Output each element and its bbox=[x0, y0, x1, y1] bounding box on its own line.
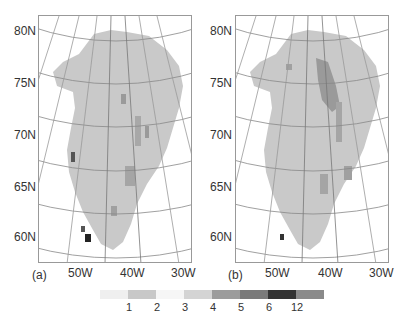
colorbar-label: 3 bbox=[182, 301, 188, 313]
y-tick-label: 80N bbox=[210, 24, 232, 38]
colorbar-swatch bbox=[128, 290, 156, 299]
colorbar-swatch bbox=[100, 290, 128, 299]
x-tick-label: 50W bbox=[68, 266, 93, 280]
panel-b-label: (b) bbox=[228, 268, 243, 282]
colorbar-label: 5 bbox=[238, 301, 244, 313]
y-tick-label: 70N bbox=[210, 128, 232, 142]
colorbar-label: 12 bbox=[291, 301, 303, 313]
y-tick-label: 65N bbox=[14, 180, 36, 194]
colorbar bbox=[100, 290, 324, 299]
colorbar-swatch bbox=[240, 290, 268, 299]
colorbar-swatch bbox=[156, 290, 184, 299]
panel-a-label: (a) bbox=[32, 268, 47, 282]
x-tick-label: 30W bbox=[171, 266, 196, 280]
greenland-map-a bbox=[39, 16, 192, 263]
greenland-map-b bbox=[236, 16, 389, 263]
y-tick-label: 60N bbox=[14, 230, 36, 244]
x-tick-label: 40W bbox=[318, 266, 343, 280]
y-tick-label: 70N bbox=[14, 128, 36, 142]
map-panel-b bbox=[235, 15, 389, 263]
y-tick-label: 65N bbox=[210, 180, 232, 194]
colorbar-label: 6 bbox=[266, 301, 272, 313]
colorbar-label: 1 bbox=[126, 301, 132, 313]
x-tick-label: 40W bbox=[120, 266, 145, 280]
colorbar-swatch bbox=[268, 290, 296, 299]
x-tick-label: 50W bbox=[265, 266, 290, 280]
colorbar-label: 2 bbox=[154, 301, 160, 313]
colorbar-swatch bbox=[184, 290, 212, 299]
x-tick-label: 30W bbox=[369, 266, 394, 280]
y-tick-label: 75N bbox=[14, 76, 36, 90]
map-panel-a bbox=[38, 15, 192, 263]
colorbar-swatch bbox=[212, 290, 240, 299]
colorbar-label: 4 bbox=[210, 301, 216, 313]
y-tick-label: 75N bbox=[210, 76, 232, 90]
colorbar-swatch bbox=[296, 290, 324, 299]
y-tick-label: 60N bbox=[210, 230, 232, 244]
y-tick-label: 80N bbox=[14, 24, 36, 38]
